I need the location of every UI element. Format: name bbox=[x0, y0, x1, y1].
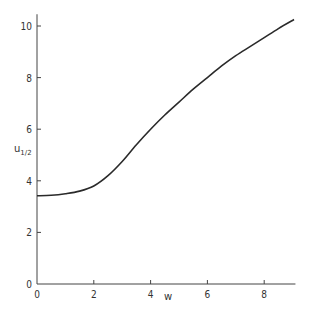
y-tick-label: 6 bbox=[26, 124, 32, 135]
axes: 024680246810 bbox=[21, 14, 296, 300]
x-tick-label: 4 bbox=[148, 289, 154, 300]
x-tick-label: 2 bbox=[91, 289, 97, 300]
x-tick-label: 6 bbox=[205, 289, 211, 300]
y-axis-label: u1/2 bbox=[14, 143, 32, 157]
y-tick-label: 2 bbox=[26, 227, 32, 238]
y-tick-label: 8 bbox=[26, 73, 32, 84]
y-tick-label: 4 bbox=[26, 176, 32, 187]
x-axis-label: w bbox=[164, 291, 172, 302]
chart: 024680246810 w u1/2 bbox=[0, 0, 316, 311]
x-tick-label: 0 bbox=[34, 289, 40, 300]
y-tick-label: 0 bbox=[26, 279, 32, 290]
y-tick-label: 10 bbox=[21, 21, 33, 32]
data-line bbox=[37, 20, 294, 196]
x-tick-label: 8 bbox=[261, 289, 267, 300]
